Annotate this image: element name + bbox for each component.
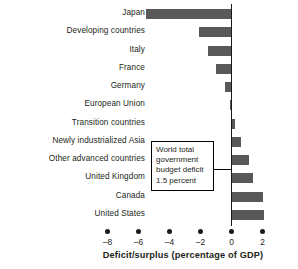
annotation-line-2: government bbox=[156, 155, 209, 165]
axis-tick-label: –8 bbox=[96, 237, 120, 247]
bar bbox=[232, 210, 265, 220]
axis-tick-label: 2 bbox=[251, 237, 275, 247]
annotation-leader-line bbox=[214, 169, 232, 170]
annotation-line-1: World total bbox=[156, 145, 209, 155]
axis-tick-label: 0 bbox=[220, 237, 244, 247]
plot-area bbox=[0, 0, 298, 226]
bar bbox=[216, 64, 232, 74]
bar bbox=[232, 173, 254, 183]
bar bbox=[208, 46, 231, 56]
axis-tick-label: –6 bbox=[127, 237, 151, 247]
axis-tick-label: –4 bbox=[158, 237, 182, 247]
axis-tick-dot bbox=[136, 229, 141, 234]
axis-title: Deficit/surplus (percentage of GDP) bbox=[0, 250, 298, 260]
axis-tick-dot bbox=[167, 229, 172, 234]
zero-reference-line bbox=[231, 4, 233, 226]
annotation-line-4: 1.5 percent bbox=[156, 176, 209, 186]
value-axis: –8–6–4–202 Deficit/surplus (percentage o… bbox=[0, 226, 298, 269]
bar bbox=[232, 192, 263, 202]
bar bbox=[199, 27, 232, 37]
axis-tick-dot bbox=[105, 229, 110, 234]
bar bbox=[232, 155, 249, 165]
bar bbox=[146, 9, 231, 19]
annotation-line-3: budget deficit bbox=[156, 165, 209, 175]
bar bbox=[232, 137, 241, 147]
axis-tick-dot bbox=[229, 229, 234, 234]
budget-deficit-bar-chart: JapanDeveloping countriesItalyFranceGerm… bbox=[0, 0, 298, 269]
axis-tick-dot bbox=[198, 229, 203, 234]
axis-tick-label: –2 bbox=[189, 237, 213, 247]
axis-tick-dot bbox=[260, 229, 265, 234]
world-total-annotation: World total government budget deficit 1.… bbox=[151, 141, 214, 191]
